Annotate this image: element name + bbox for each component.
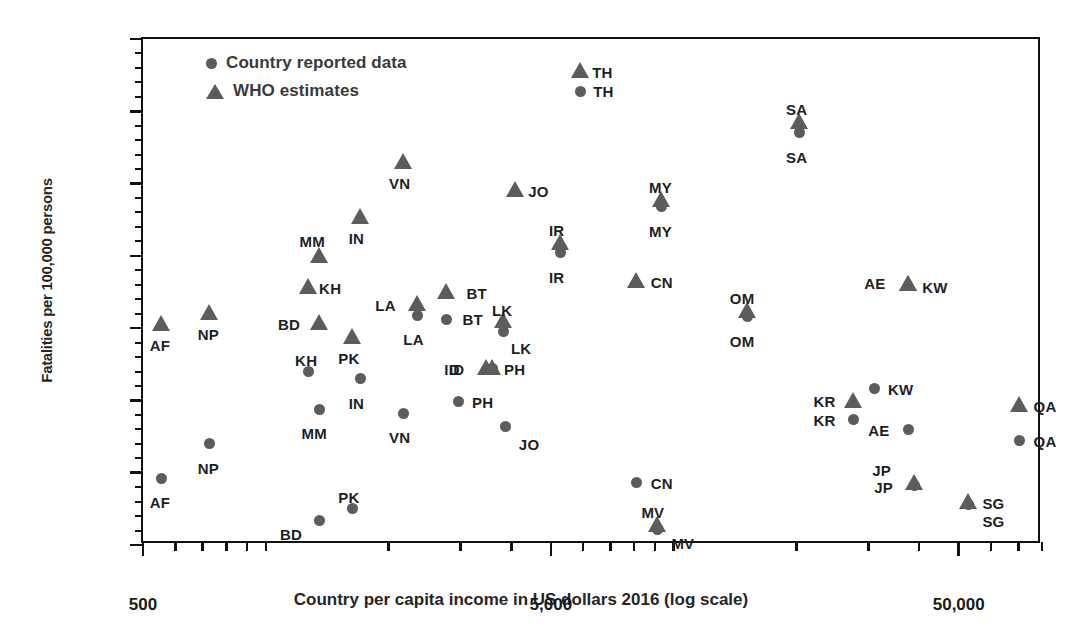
- y-tick-minor: [135, 313, 143, 315]
- data-point-triangle-TH: [571, 62, 589, 78]
- data-point-label-JP: JP: [872, 462, 891, 479]
- x-tick-minor: [265, 542, 268, 551]
- x-tick-minor: [918, 542, 921, 551]
- y-tick-minor: [135, 67, 143, 69]
- data-point-circle-JO: [500, 421, 511, 432]
- data-point-circle-PH: [453, 396, 464, 407]
- data-point-label-BT: BT: [467, 285, 487, 302]
- data-point-label-AF: AF: [150, 337, 170, 354]
- x-tick-minor: [225, 542, 228, 551]
- data-point-triangle-VN: [394, 153, 412, 169]
- data-point-label-VN: VN: [389, 175, 410, 192]
- data-point-label-MM: MM: [302, 425, 327, 442]
- x-tick-minor: [174, 542, 177, 551]
- y-tick-minor: [135, 298, 143, 300]
- data-point-triangle-IN: [351, 208, 369, 224]
- x-tick-minor: [633, 542, 636, 551]
- y-tick-minor: [135, 52, 143, 54]
- y-tick-minor: [135, 515, 143, 517]
- y-axis-title: Fatalities per 100,000 persons: [38, 151, 55, 411]
- data-point-circle-NP: [204, 438, 215, 449]
- y-tick-major: [130, 110, 143, 113]
- x-tick-minor: [246, 542, 249, 551]
- data-point-label-VN: VN: [389, 429, 410, 446]
- data-point-triangle-NP: [200, 304, 218, 320]
- data-point-circle-KR: [848, 414, 859, 425]
- y-tick-minor: [135, 385, 143, 387]
- data-point-label-KH: KH: [319, 280, 341, 297]
- data-point-label-SA: SA: [786, 149, 807, 166]
- y-tick-minor: [135, 125, 143, 127]
- y-tick-minor: [135, 197, 143, 199]
- data-point-label-IN: IN: [349, 395, 364, 412]
- x-tick-minor: [1041, 542, 1044, 551]
- y-tick-major: [130, 182, 143, 185]
- x-tick-minor: [387, 542, 390, 551]
- y-tick-minor: [135, 269, 143, 271]
- data-point-label-CN: CN: [651, 274, 673, 291]
- y-tick-minor: [135, 443, 143, 445]
- data-point-label-OM: OM: [730, 333, 755, 350]
- data-point-label-ID: ID: [444, 361, 459, 378]
- legend-item-reported: Country reported data: [206, 49, 407, 77]
- data-point-label-NP: NP: [198, 460, 219, 477]
- triangle-marker-icon: [206, 84, 224, 99]
- data-point-triangle-LA: [408, 295, 426, 311]
- y-tick-major: [130, 38, 143, 41]
- x-tick-major: [957, 542, 960, 556]
- data-point-label-MV: MV: [671, 535, 694, 552]
- y-tick-minor: [135, 226, 143, 228]
- data-point-label-KR: KR: [813, 393, 835, 410]
- data-point-triangle-KR: [844, 392, 862, 408]
- data-point-label-BT: BT: [463, 311, 483, 328]
- x-tick-minor: [510, 542, 513, 551]
- data-point-triangle-JO: [506, 181, 524, 197]
- data-point-label-KH: KH: [295, 352, 317, 369]
- y-tick-minor: [135, 371, 143, 373]
- data-point-triangle-PH: [483, 359, 501, 375]
- y-tick-minor: [135, 240, 143, 242]
- data-point-label-CN: CN: [651, 475, 673, 492]
- data-point-label-PH: PH: [504, 361, 525, 378]
- data-point-circle-AF: [156, 473, 167, 484]
- y-tick-major: [130, 399, 143, 402]
- data-point-label-JP: JP: [874, 479, 893, 496]
- data-point-label-BD: BD: [280, 526, 302, 543]
- data-point-label-QA: QA: [1034, 433, 1057, 450]
- data-point-label-TH: TH: [593, 83, 613, 100]
- data-point-label-QA: QA: [1034, 398, 1057, 415]
- data-point-triangle-CN: [627, 272, 645, 288]
- data-point-triangle-BD: [310, 314, 328, 330]
- data-point-label-PK: PK: [338, 489, 359, 506]
- scatter-chart: Fatalities per 100,000 persons Country p…: [0, 0, 1070, 644]
- x-tick-label: 50,000: [899, 595, 1019, 615]
- data-point-circle-VN: [398, 408, 409, 419]
- data-point-label-LA: LA: [375, 297, 395, 314]
- data-point-circle-AE: [903, 424, 914, 435]
- y-tick-major: [130, 471, 143, 474]
- legend-item-who: WHO estimates: [206, 77, 407, 105]
- data-point-label-MY: MY: [649, 179, 672, 196]
- y-tick-minor: [135, 501, 143, 503]
- y-tick-minor: [135, 414, 143, 416]
- data-point-label-LK: LK: [511, 340, 531, 357]
- x-tick-minor: [654, 542, 657, 551]
- data-point-label-LA: LA: [403, 331, 423, 348]
- legend-label-who: WHO estimates: [233, 81, 359, 101]
- circle-marker-icon: [206, 58, 217, 69]
- x-tick-minor: [867, 542, 870, 551]
- data-point-label-IN: IN: [349, 230, 364, 247]
- data-point-label-PK: PK: [338, 350, 359, 367]
- y-tick-major: [130, 327, 143, 330]
- y-tick-minor: [135, 284, 143, 286]
- y-tick-minor: [135, 154, 143, 156]
- data-point-circle-MM: [314, 404, 325, 415]
- y-tick-minor: [135, 486, 143, 488]
- data-point-label-KW: KW: [922, 279, 947, 296]
- data-point-label-SG: SG: [982, 513, 1004, 530]
- data-point-label-AF: AF: [150, 494, 170, 511]
- x-tick-major: [142, 542, 145, 556]
- data-point-triangle-SG: [959, 493, 977, 509]
- data-point-label-SG: SG: [982, 495, 1004, 512]
- y-tick-major: [130, 255, 143, 258]
